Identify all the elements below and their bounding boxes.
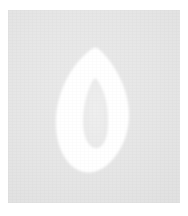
image-canvas xyxy=(0,0,188,216)
paper-swatch xyxy=(8,10,180,203)
